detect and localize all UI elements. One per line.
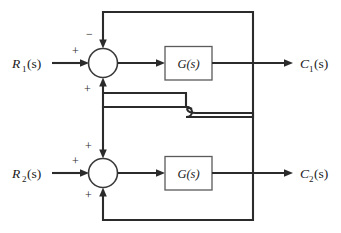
label-output-2-argument: (s)	[314, 166, 328, 181]
label-block-g1: G(s)	[177, 57, 199, 71]
label-input-1-subscript: 1	[22, 64, 27, 74]
summing-junction-bottom	[89, 159, 118, 188]
label-input-2-subscript: 2	[22, 174, 27, 184]
label-output-2-subscript: 2	[309, 174, 314, 184]
label-output-1-argument: (s)	[314, 56, 328, 71]
sign-bottom-junction-top: +	[85, 139, 92, 153]
label-output-1: C 1 (s)	[300, 56, 328, 74]
label-input-2-argument: (s)	[27, 166, 41, 181]
sign-top-junction-bottom: +	[84, 82, 91, 96]
label-input-2: R 2 (s)	[11, 166, 41, 184]
sign-top-junction-top: −	[86, 27, 93, 41]
label-input-1-argument: (s)	[27, 56, 41, 71]
cross-wire-upper-segment	[103, 93, 186, 107]
label-block-g2: G(s)	[177, 167, 199, 181]
cross-wire-lower-to-sum-bottom	[99, 107, 186, 159]
sign-top-junction-left: +	[72, 44, 79, 58]
label-input-2-symbol: R	[11, 166, 21, 181]
sum-bottom-to-block-2-wire	[118, 169, 166, 177]
sign-bottom-junction-left: +	[72, 154, 79, 168]
label-output-2: C 2 (s)	[300, 166, 328, 184]
label-input-1-symbol: R	[11, 56, 21, 71]
summing-junction-top	[89, 49, 118, 78]
input-2-wire	[52, 169, 89, 177]
label-input-1: R 1 (s)	[11, 56, 41, 74]
sign-bottom-junction-bottom: +	[85, 188, 92, 202]
block-diagram-canvas: − + + + + + R 1 (s) R 2 (s) C 1 (s) C 2 …	[0, 0, 341, 233]
label-output-1-subscript: 1	[309, 64, 314, 74]
input-1-wire	[52, 59, 89, 67]
block-diagram-figure: − + + + + + R 1 (s) R 2 (s) C 1 (s) C 2 …	[0, 0, 341, 233]
sum-top-to-block-1-wire	[118, 59, 166, 67]
